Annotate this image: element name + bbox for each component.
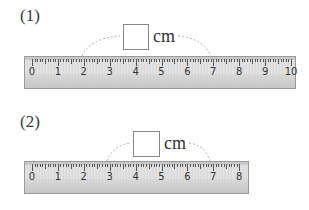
ruler-tick xyxy=(110,164,111,171)
ruler-tick xyxy=(156,164,157,167)
ruler-tick xyxy=(102,164,103,167)
ruler-tick xyxy=(229,164,230,167)
ruler-tick xyxy=(133,164,134,167)
ruler-tick xyxy=(187,164,188,171)
ruler-tick xyxy=(112,164,113,167)
ruler-tick xyxy=(237,164,238,167)
ruler-tick xyxy=(169,164,170,167)
ruler-tick xyxy=(86,164,87,167)
ruler-tick xyxy=(143,164,144,167)
ruler-tick xyxy=(107,164,108,167)
ruler-tick xyxy=(172,164,173,167)
ruler-tick xyxy=(221,164,222,167)
ruler-tick xyxy=(42,164,43,167)
ruler-tick xyxy=(71,164,72,169)
ruler-tick xyxy=(211,164,212,167)
ruler-tick xyxy=(231,164,232,167)
ruler-tick xyxy=(213,164,214,171)
ruler-tick xyxy=(117,164,118,167)
ruler-tick xyxy=(58,164,59,171)
ruler-tick xyxy=(130,164,131,167)
ruler-tick xyxy=(50,164,51,167)
ruler-tick xyxy=(159,164,160,167)
ruler-tick xyxy=(198,164,199,167)
ruler-tick xyxy=(48,164,49,167)
ruler-tick xyxy=(99,164,100,167)
ruler-tick xyxy=(162,164,163,171)
ruler-tick xyxy=(203,164,204,167)
ruler-tick xyxy=(208,164,209,167)
ruler-tick xyxy=(35,164,36,167)
ruler-tick xyxy=(68,164,69,167)
ruler-tick xyxy=(167,164,168,167)
ruler-tick xyxy=(53,164,54,167)
ruler-tick xyxy=(216,164,217,167)
ruler-tick xyxy=(97,164,98,169)
ruler-tick xyxy=(115,164,116,167)
ruler-number: 0 xyxy=(29,171,35,182)
ruler-tick xyxy=(224,164,225,167)
ruler-tick xyxy=(120,164,121,167)
ruler-number: 7 xyxy=(210,171,216,182)
ruler-tick xyxy=(193,164,194,167)
ruler-tick xyxy=(141,164,142,167)
ruler-tick xyxy=(234,164,235,167)
ruler-tick xyxy=(128,164,129,167)
ruler-number: 3 xyxy=(107,171,113,182)
ruler-tick xyxy=(180,164,181,167)
ruler-tick xyxy=(81,164,82,167)
ruler-2: 012345678 xyxy=(24,161,249,194)
ruler-number: 6 xyxy=(184,171,190,182)
ruler-tick xyxy=(73,164,74,167)
ruler-tick xyxy=(177,164,178,167)
ruler-number: 5 xyxy=(158,171,164,182)
ruler-tick xyxy=(218,164,219,167)
ruler-tick xyxy=(206,164,207,167)
ruler-tick xyxy=(239,164,240,171)
ruler-tick xyxy=(105,164,106,167)
ruler-tick xyxy=(45,164,46,169)
ruler-tick xyxy=(190,164,191,167)
ruler-tick xyxy=(226,164,227,169)
ruler-tick xyxy=(149,164,150,169)
ruler-tick xyxy=(92,164,93,167)
ruler-tick xyxy=(154,164,155,167)
ruler-tick xyxy=(94,164,95,167)
ruler-tick xyxy=(66,164,67,167)
ruler-tick xyxy=(146,164,147,167)
ruler-tick xyxy=(136,164,137,171)
ruler-number: 2 xyxy=(81,171,87,182)
ruler-tick xyxy=(123,164,124,169)
ruler-number: 4 xyxy=(132,171,138,182)
ruler-tick xyxy=(164,164,165,167)
ruler-tick xyxy=(125,164,126,167)
ruler-tick xyxy=(138,164,139,167)
ruler-tick xyxy=(60,164,61,167)
ruler-tick xyxy=(55,164,56,167)
ruler-tick xyxy=(32,164,33,171)
ruler-tick xyxy=(174,164,175,169)
ruler-tick xyxy=(63,164,64,167)
ruler-tick xyxy=(84,164,85,171)
ruler-number: 1 xyxy=(55,171,61,182)
ruler-tick xyxy=(79,164,80,167)
ruler-tick xyxy=(76,164,77,167)
ruler-number: 8 xyxy=(236,171,242,182)
ruler-tick xyxy=(182,164,183,167)
ruler-tick xyxy=(37,164,38,167)
ruler-tick xyxy=(40,164,41,167)
ruler-tick xyxy=(200,164,201,169)
ruler-tick xyxy=(185,164,186,167)
ruler-tick xyxy=(89,164,90,167)
ruler-tick xyxy=(195,164,196,167)
ruler-tick xyxy=(151,164,152,167)
